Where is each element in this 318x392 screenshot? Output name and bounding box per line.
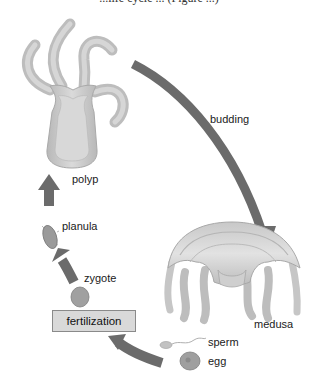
zygote-to-planula-arrow	[52, 248, 74, 282]
label-fertilization: fertilization	[67, 315, 122, 327]
planula-illustration	[40, 224, 60, 251]
budding-arrow	[133, 64, 276, 250]
label-medusa: medusa	[254, 318, 293, 330]
label-egg: egg	[208, 355, 226, 367]
planula-to-polyp-arrow	[38, 174, 60, 206]
label-polyp: polyp	[72, 173, 98, 185]
sperm-illustration	[160, 338, 206, 349]
fertilization-arrow	[108, 334, 162, 363]
label-zygote: zygote	[84, 272, 116, 284]
life-cycle-diagram	[0, 0, 318, 392]
label-sperm: sperm	[208, 336, 239, 348]
label-planula: planula	[62, 220, 97, 232]
zygote-illustration	[71, 287, 89, 307]
fertilization-box: fertilization	[52, 310, 136, 332]
label-budding: budding	[210, 113, 249, 125]
egg-illustration	[180, 352, 200, 370]
polyp-illustration	[27, 24, 123, 168]
medusa-illustration	[168, 222, 300, 320]
